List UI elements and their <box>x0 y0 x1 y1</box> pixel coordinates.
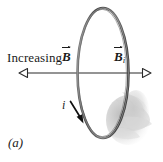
applied-field-arrowhead-icon <box>19 69 28 78</box>
induced-field-symbol: B i <box>114 50 125 65</box>
increasing-applied-field-label: Increasing <box>7 51 62 64</box>
increasing-word: Increasing <box>7 50 62 65</box>
bi-letter: B <box>114 49 123 64</box>
panel-caption: (a) <box>8 136 23 149</box>
induction-figure-panel-a: Increasing B B i i (a) <box>0 0 163 162</box>
applied-field-symbol: B <box>62 50 71 63</box>
vector-b-symbol: B <box>62 50 71 63</box>
bi-subscript: i <box>123 55 125 65</box>
figure-graphics <box>0 0 163 162</box>
induced-field-arrowhead-icon <box>143 69 152 78</box>
vector-arrow-icon <box>114 47 123 48</box>
b-letter: B <box>62 49 71 64</box>
vector-arrow-icon <box>62 47 71 48</box>
loop-shadow <box>106 90 152 145</box>
induced-current-label: i <box>62 99 65 111</box>
vector-bi-symbol: B <box>114 50 123 63</box>
